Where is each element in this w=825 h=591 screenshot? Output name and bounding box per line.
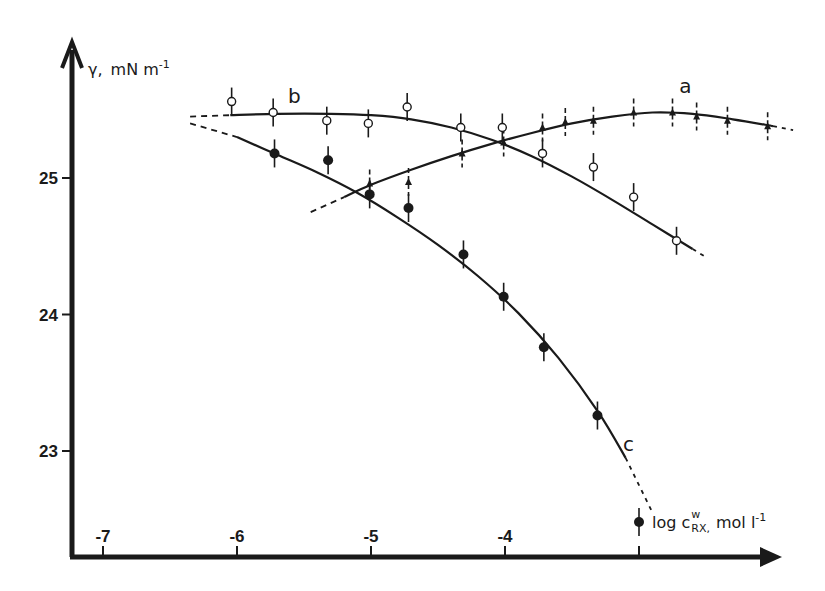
data-point-b xyxy=(539,149,547,157)
data-point-a xyxy=(405,178,412,185)
x-tick-label: -5 xyxy=(363,527,378,546)
curve-b-extrapolation xyxy=(693,249,706,257)
data-point-b xyxy=(498,123,506,131)
data-point-b xyxy=(364,119,372,127)
curve-label-b: b xyxy=(288,84,301,108)
data-point-b xyxy=(673,237,681,245)
curve-c-extrapolation xyxy=(190,123,237,137)
data-point-b xyxy=(323,117,331,125)
data-markers xyxy=(228,88,772,536)
data-point-a xyxy=(562,118,569,125)
data-point-c xyxy=(323,155,333,165)
data-point-c xyxy=(270,148,280,158)
curve-a-extrapolation xyxy=(773,126,793,130)
data-point-c xyxy=(634,517,644,527)
data-point-a xyxy=(630,108,637,115)
data-point-a xyxy=(539,123,546,130)
y-ticks: 252423 xyxy=(39,169,72,461)
data-point-b xyxy=(457,123,465,131)
data-point-c xyxy=(499,292,509,302)
x-ticks: -7-6-5-4 xyxy=(95,527,639,557)
curve-c xyxy=(237,137,626,458)
x-tick-label: -4 xyxy=(497,527,513,546)
y-tick-label: 23 xyxy=(39,442,58,461)
data-point-b xyxy=(228,98,236,106)
y-tick-label: 25 xyxy=(39,169,58,188)
surface-tension-chart: 252423 -7-6-5-4 γ,mN m-1 log cwRX,mol l-… xyxy=(0,0,825,591)
data-point-c xyxy=(365,189,375,199)
data-point-c xyxy=(404,203,414,213)
curve-label-c: c xyxy=(623,432,634,456)
x-axis-arrow-icon xyxy=(760,547,782,567)
data-point-c xyxy=(539,342,549,352)
curves xyxy=(190,112,793,512)
curve-label-a: a xyxy=(679,74,691,98)
y-tick-label: 24 xyxy=(39,306,58,325)
y-axis-title: γ,mN m-1 xyxy=(88,58,170,79)
data-point-c xyxy=(458,249,468,259)
curve-c-extrapolation xyxy=(626,458,653,513)
data-point-b xyxy=(589,163,597,171)
axes: 252423 -7-6-5-4 xyxy=(39,42,782,567)
curve-labels: abc xyxy=(288,74,692,456)
data-point-b xyxy=(630,193,638,201)
curve-a-extrapolation xyxy=(311,197,345,212)
x-tick-label: -6 xyxy=(229,527,244,546)
data-point-b xyxy=(403,103,411,111)
x-axis-title: log cwRX,mol l-1 xyxy=(652,508,766,535)
data-point-c xyxy=(592,411,602,421)
data-point-b xyxy=(269,108,277,116)
x-tick-label: -7 xyxy=(95,527,110,546)
curve-b-extrapolation xyxy=(190,115,230,116)
